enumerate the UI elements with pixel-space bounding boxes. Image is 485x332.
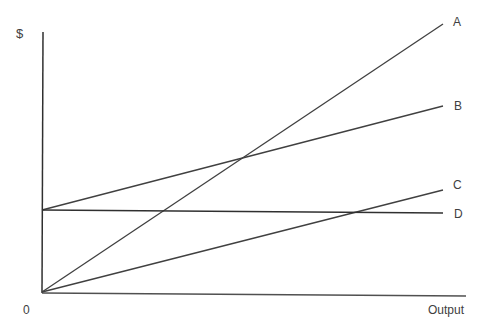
- origin-label: 0: [23, 304, 30, 316]
- line-c: [42, 190, 443, 292]
- y-axis-label: $: [16, 27, 23, 40]
- x-axis-label: Output: [428, 304, 464, 316]
- line-c-label: C: [453, 179, 462, 191]
- cost-revenue-diagram: [0, 0, 485, 332]
- line-b-label: B: [454, 100, 462, 112]
- y-axis: [42, 32, 43, 293]
- line-d: [42, 210, 443, 213]
- line-d-label: D: [454, 208, 463, 220]
- line-a-label: A: [453, 16, 461, 28]
- x-axis: [42, 293, 466, 296]
- line-b: [42, 106, 443, 210]
